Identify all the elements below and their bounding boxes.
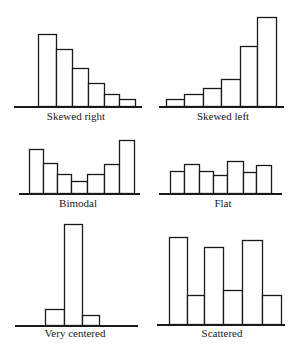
label-very-centered: Very centered — [15, 327, 135, 339]
histogram-bar — [46, 310, 65, 326]
histogram-bar — [214, 176, 228, 194]
histogram-bar — [185, 95, 204, 107]
histogram-bar — [243, 241, 263, 325]
histogram-bar — [204, 89, 222, 107]
histogram-bar — [188, 296, 205, 325]
histogram-bar — [185, 165, 200, 194]
histogram-bar — [89, 84, 105, 107]
histogram-bar — [228, 162, 244, 194]
histogram-bar — [44, 164, 58, 194]
histogram-bar — [58, 175, 72, 194]
histogram-bar — [39, 35, 57, 107]
label-skewed-left: Skewed left — [163, 110, 283, 122]
histogram-bar — [170, 238, 188, 325]
histogram-bar — [105, 165, 120, 194]
histogram-bar — [120, 141, 135, 194]
histogram-bar — [263, 296, 282, 325]
histogram-skewed-left — [159, 18, 284, 108]
histogram-bar — [222, 80, 241, 107]
histogram-bar — [224, 291, 243, 325]
histogram-bar — [73, 69, 89, 107]
histogram-bar — [105, 95, 120, 107]
histogram-scattered — [157, 238, 285, 326]
histogram-bar — [83, 316, 100, 326]
histogram-bar — [257, 166, 272, 194]
histogram-bar — [171, 172, 185, 194]
histogram-bar — [244, 173, 257, 194]
histogram-bimodal — [19, 141, 140, 195]
histogram-bar — [72, 182, 88, 194]
histogram-bar — [57, 50, 73, 107]
label-skewed-right: Skewed right — [16, 110, 136, 122]
histogram-skewed-right — [14, 35, 142, 108]
histogram-bar — [30, 150, 44, 194]
histogram-bar — [241, 47, 258, 107]
histogram-bar — [205, 248, 224, 325]
histogram-flat — [159, 162, 282, 195]
label-bimodal: Bimodal — [18, 197, 138, 209]
label-flat: Flat — [163, 197, 283, 209]
label-scattered: Scattered — [162, 327, 282, 339]
histogram-shapes-figure — [0, 0, 298, 352]
histogram-bar — [120, 100, 136, 107]
histogram-bar — [200, 172, 214, 194]
histogram-bar — [65, 225, 83, 326]
histogram-bar — [167, 100, 185, 107]
histogram-bar — [88, 175, 105, 194]
histogram-bar — [258, 18, 277, 107]
histogram-very-centered — [15, 225, 138, 327]
